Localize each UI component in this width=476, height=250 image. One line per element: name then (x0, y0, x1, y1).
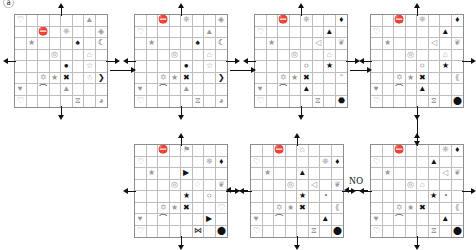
grid-cell-empty[interactable] (204, 73, 216, 85)
grid-cell-symbol[interactable]: ✡ (394, 73, 406, 85)
grid-cell-symbol[interactable]: ▲ (297, 168, 309, 180)
grid-cell-symbol[interactable]: ⌂ (204, 50, 216, 62)
grid-cell-empty[interactable] (263, 157, 275, 169)
grid-cell-symbol[interactable]: ✡ (38, 73, 50, 85)
grid-cell-symbol[interactable]: ❯ (96, 73, 108, 85)
grid-cell-symbol[interactable]: ▲ (429, 157, 441, 169)
grid-cell-symbol[interactable]: ⌂ (440, 50, 452, 62)
grid-cell-symbol[interactable]: ♠ (193, 38, 205, 50)
grid-cell-empty[interactable] (193, 168, 205, 180)
grid-cell-empty[interactable] (417, 226, 429, 238)
grid-cell-empty[interactable] (193, 73, 205, 85)
grid-cell-empty[interactable] (267, 96, 279, 108)
grid-cell-symbol[interactable]: ◎ (170, 180, 182, 192)
grid-cell-empty[interactable] (170, 96, 182, 108)
grid-cell-symbol[interactable]: ▶ (181, 168, 193, 180)
grid-cell-symbol[interactable]: ★ (181, 191, 193, 203)
grid-cell-empty[interactable] (429, 168, 441, 180)
grid-cell-empty[interactable] (158, 96, 170, 108)
grid-cell-symbol[interactable]: ⌒ (278, 84, 290, 96)
grid-cell-empty[interactable] (290, 96, 302, 108)
grid-cell-empty[interactable] (147, 27, 159, 39)
grid-cell-empty[interactable] (452, 61, 464, 73)
grid-cell-empty[interactable] (38, 61, 50, 73)
grid-cell-empty[interactable] (38, 50, 50, 62)
grid-cell-empty[interactable] (452, 180, 464, 192)
grid-cell-empty[interactable] (429, 73, 441, 85)
grid-cell-empty[interactable] (394, 157, 406, 169)
grid-cell-empty[interactable] (383, 15, 395, 27)
grid-cell-symbol[interactable]: ♡ (135, 226, 147, 238)
grid-cell-symbol[interactable]: ⛔ (394, 145, 406, 157)
grid-cell-empty[interactable] (96, 15, 108, 27)
grid-cell-empty[interactable] (440, 38, 452, 50)
grid-cell-symbol[interactable]: ◁ (309, 180, 321, 192)
grid-cell-empty[interactable] (394, 191, 406, 203)
grid-cell-empty[interactable] (429, 180, 441, 192)
grid-3[interactable]: ⛔❈♦♡▲★◁❦◎⌂○★✡★✖⌃♥⌒▲♡⧖⬣ (254, 14, 348, 108)
grid-4[interactable]: ⛔❈♦♡▲★◁❦◎⌂○★✡★✖⟪♥⌒▲♡⧖⬤ (370, 14, 464, 108)
grid-cell-empty[interactable] (96, 84, 108, 96)
grid-cell-empty[interactable] (406, 214, 418, 226)
grid-cell-empty[interactable] (440, 73, 452, 85)
grid-cell-empty[interactable] (406, 191, 418, 203)
grid-cell-symbol[interactable]: ○ (301, 61, 313, 73)
grid-cell-empty[interactable] (204, 203, 216, 215)
grid-cell-empty[interactable] (255, 38, 267, 50)
grid-cell-empty[interactable] (301, 27, 313, 39)
grid-cell-empty[interactable] (274, 191, 286, 203)
grid-cell-symbol[interactable]: ★ (406, 73, 418, 85)
grid-cell-empty[interactable] (452, 27, 464, 39)
grid-cell-empty[interactable] (147, 191, 159, 203)
grid-cell-empty[interactable] (332, 145, 344, 157)
grid-cell-symbol[interactable]: ★ (406, 203, 418, 215)
grid-cell-empty[interactable] (50, 27, 62, 39)
grid-cell-symbol[interactable]: ★ (170, 73, 182, 85)
grid-cell-empty[interactable] (267, 61, 279, 73)
grid-cell-empty[interactable] (394, 180, 406, 192)
grid-cell-symbol[interactable]: ▲ (417, 84, 429, 96)
grid-cell-symbol[interactable]: ⧖ (429, 226, 441, 238)
grid-cell-empty[interactable] (181, 157, 193, 169)
grid-cell-symbol[interactable]: ❯ (216, 73, 228, 85)
grid-cell-empty[interactable] (309, 168, 321, 180)
grid-cell-symbol[interactable]: ◔ (320, 191, 332, 203)
grid-cell-empty[interactable] (170, 145, 182, 157)
grid-cell-empty[interactable] (61, 38, 73, 50)
grid-cell-symbol[interactable]: ☆ (204, 61, 216, 73)
grid-cell-empty[interactable] (147, 226, 159, 238)
grid-cell-empty[interactable] (255, 61, 267, 73)
grid-cell-empty[interactable] (429, 50, 441, 62)
grid-cell-symbol[interactable]: ⛔ (158, 145, 170, 157)
grid-cell-symbol[interactable]: ◁ (313, 38, 325, 50)
grid-cell-empty[interactable] (274, 180, 286, 192)
grid-cell-empty[interactable] (216, 214, 228, 226)
grid-cell-symbol[interactable]: ▲ (181, 84, 193, 96)
grid-cell-empty[interactable] (158, 180, 170, 192)
grid-cell-empty[interactable] (406, 157, 418, 169)
grid-cell-symbol[interactable]: ⧖ (73, 96, 85, 108)
grid-cell-empty[interactable] (27, 50, 39, 62)
grid-cell-empty[interactable] (158, 50, 170, 62)
grid-cell-empty[interactable] (383, 50, 395, 62)
grid-cell-empty[interactable] (263, 214, 275, 226)
grid-cell-empty[interactable] (274, 157, 286, 169)
grid-cell-empty[interactable] (290, 84, 302, 96)
grid-cell-symbol[interactable]: ◎ (286, 180, 298, 192)
grid-cell-empty[interactable] (429, 203, 441, 215)
grid-cell-empty[interactable] (406, 168, 418, 180)
grid-cell-symbol[interactable]: ★ (383, 38, 395, 50)
grid-2[interactable]: ⛔❈◈♡▲★♠☾◎⌂●☆✡★✖❯♥⌒▲♡⧖◕ (134, 14, 228, 108)
grid-cell-symbol[interactable]: ★ (147, 38, 159, 50)
grid-cell-symbol[interactable]: ❈ (301, 15, 313, 27)
grid-cell-empty[interactable] (158, 168, 170, 180)
grid-cell-empty[interactable] (429, 145, 441, 157)
grid-cell-empty[interactable] (320, 203, 332, 215)
grid-cell-symbol[interactable]: ⬤ (452, 96, 464, 108)
grid-cell-empty[interactable] (135, 168, 147, 180)
grid-cell-symbol[interactable]: ⌂ (84, 50, 96, 62)
grid-cell-empty[interactable] (383, 226, 395, 238)
grid-cell-empty[interactable] (73, 61, 85, 73)
grid-cell-symbol[interactable]: ⟪ (452, 203, 464, 215)
grid-cell-symbol[interactable]: ❈ (181, 15, 193, 27)
